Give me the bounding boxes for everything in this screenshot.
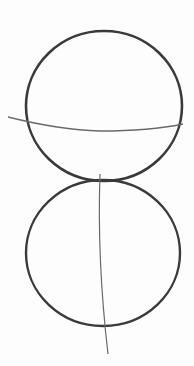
sketch-canvas [0,0,194,366]
sketch-drawing [0,0,194,366]
upper-circle [26,31,182,181]
horizontal-guideline [8,117,183,131]
